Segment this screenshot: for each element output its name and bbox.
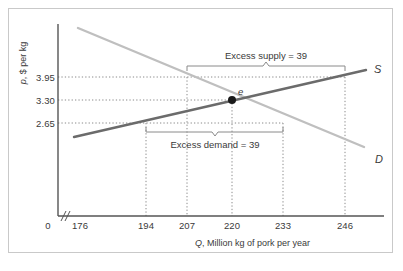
x-tick-label-220: 220 [224, 220, 240, 231]
y-tick-label-395: 3.95 [36, 72, 55, 83]
x-tick-label-176: 176 [72, 220, 88, 231]
x-axis-title-rest: , Million kg of pork per year [202, 238, 310, 248]
y-axis-title: p, $ per kg [18, 23, 28, 103]
equilibrium-point-marker [228, 96, 236, 104]
supply-curve-label: S [374, 63, 381, 75]
x-tick-label-233: 233 [275, 220, 291, 231]
demand-curve-label: D [375, 153, 383, 165]
supply-curve [74, 70, 366, 137]
x-tick-label-0: 0 [45, 220, 50, 231]
excess-demand-brace [146, 127, 283, 136]
equilibrium-point-label: e [238, 86, 243, 97]
x-tick-label-207: 207 [179, 220, 195, 231]
excess-demand-annotation: Excess demand = 39 [171, 139, 260, 150]
excess-supply-brace [187, 62, 345, 71]
excess-supply-annotation: Excess supply = 39 [225, 50, 307, 61]
x-axis-title-variable: Q [195, 238, 202, 248]
y-tick-label-330: 3.30 [36, 95, 55, 106]
x-tick-label-194: 194 [138, 220, 154, 231]
chart-figure: 3.95 3.30 2.65 0 176 194 207 220 233 246… [0, 0, 403, 271]
x-tick-label-246: 246 [337, 220, 353, 231]
x-axis-title: Q, Million kg of pork per year [195, 238, 310, 248]
y-axis-title-variable: p [18, 79, 28, 84]
y-tick-label-265: 2.65 [36, 118, 55, 129]
y-axis-title-rest: , $ per kg [18, 42, 28, 80]
demand-curve [78, 28, 364, 147]
